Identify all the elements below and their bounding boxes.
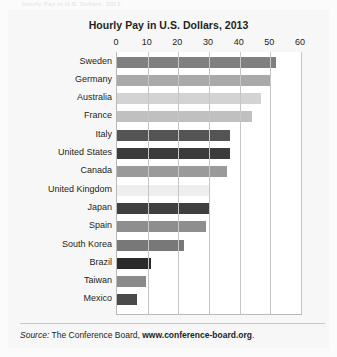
category-label-italy: Italy: [95, 129, 112, 140]
category-label-sweden: Sweden: [79, 56, 112, 67]
x-tick-50: 50: [264, 37, 274, 47]
category-label-mexico: Mexico: [83, 293, 112, 304]
bar-mexico[interactable]: [117, 294, 137, 305]
bar-spain[interactable]: [117, 221, 206, 232]
category-label-france: France: [84, 110, 112, 121]
source-body: The Conference Board,: [52, 330, 140, 340]
gridline-40: [240, 52, 241, 314]
chart-card: Hourly Pay in U.S. Dollars, 2013 0102030…: [8, 10, 329, 348]
category-label-canada: Canada: [80, 165, 112, 176]
category-label-united-kingdom: United Kingdom: [48, 184, 112, 195]
category-label-spain: Spain: [89, 220, 112, 231]
x-tick-40: 40: [234, 37, 244, 47]
bar-germany[interactable]: [117, 75, 270, 86]
cut-off-header-text: Hourly Pay in U.S. Dollars, 2013: [22, 1, 121, 7]
x-axis-tick-labels: 0102030405060: [116, 37, 300, 50]
category-label-south-korea: South Korea: [62, 239, 112, 250]
figure-page: Hourly Pay in U.S. Dollars, 2013 Hourly …: [0, 0, 337, 357]
bar-united-kingdom[interactable]: [117, 185, 209, 196]
bar-south-korea[interactable]: [117, 240, 184, 251]
bar-france[interactable]: [117, 111, 252, 122]
plot-area: SwedenGermanyAustraliaFranceItalyUnited …: [116, 52, 302, 315]
bar-canada[interactable]: [117, 166, 227, 177]
gridline-20: [178, 52, 179, 314]
category-label-united-states: United States: [58, 147, 112, 158]
x-tick-0: 0: [113, 37, 118, 47]
gridline-30: [209, 52, 210, 314]
source-lead: Source:: [20, 330, 49, 340]
bar-italy[interactable]: [117, 130, 230, 141]
footer-divider: [20, 323, 325, 324]
x-tick-20: 20: [172, 37, 182, 47]
category-label-australia: Australia: [77, 92, 112, 103]
category-label-germany: Germany: [75, 74, 112, 85]
bar-sweden[interactable]: [117, 57, 276, 68]
gridline-50: [270, 52, 271, 314]
gridline-60: [301, 52, 302, 314]
bar-brazil[interactable]: [117, 258, 151, 269]
chart-title: Hourly Pay in U.S. Dollars, 2013: [8, 19, 329, 31]
category-label-taiwan: Taiwan: [84, 275, 112, 286]
bar-taiwan[interactable]: [117, 276, 146, 287]
source-note: Source: The Conference Board, www.confer…: [20, 330, 254, 340]
x-tick-10: 10: [142, 37, 152, 47]
bar-united-states[interactable]: [117, 148, 230, 159]
bar-japan[interactable]: [117, 203, 209, 214]
category-label-japan: Japan: [87, 202, 112, 213]
gridline-10: [148, 52, 149, 314]
x-tick-60: 60: [295, 37, 305, 47]
source-url[interactable]: www.conference-board.org: [142, 330, 252, 340]
category-label-brazil: Brazil: [89, 257, 112, 268]
x-tick-30: 30: [203, 37, 213, 47]
source-period: .: [252, 330, 254, 340]
